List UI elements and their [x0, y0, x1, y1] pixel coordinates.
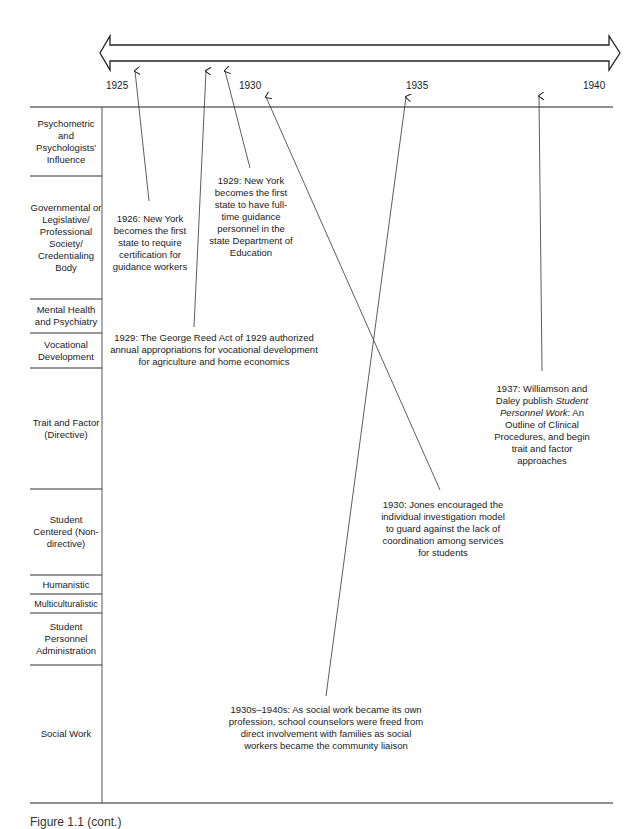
year-label-1925: 1925 — [106, 80, 128, 91]
category-multiculturalistic: Multiculturalistic — [28, 594, 104, 613]
event-1930s-1940s-social-work: 1930s–1940s: As social work became its o… — [226, 704, 426, 752]
leader-george-reed — [194, 71, 206, 327]
year-label-1940: 1940 — [583, 80, 605, 91]
event-1926-ny-certification: 1926: New York becomes the first state t… — [108, 213, 192, 273]
year-label-1935: 1935 — [406, 80, 428, 91]
year-label-1930: 1930 — [239, 80, 261, 91]
timeline-double-arrow — [100, 36, 620, 70]
category-student-personnel-admin: Student Personnel Administration — [30, 613, 102, 665]
event-1929-ny-personnel: 1929: New York becomes the first state t… — [206, 175, 296, 259]
leader-1926 — [135, 71, 149, 201]
event-1937-williamson-daley: 1937: Williamson and Daley publish Stude… — [494, 383, 590, 467]
category-psychometric: Psychometric and Psychologists' Influenc… — [30, 107, 102, 176]
category-vocational: Vocational Development — [30, 333, 102, 368]
category-humanistic: Humanistic — [30, 575, 102, 594]
figure-caption: Figure 1.1 (cont.) — [30, 815, 121, 829]
category-student-centered: Student Centered (Non-directive) — [30, 489, 102, 575]
category-mental-health: Mental Health and Psychiatry — [30, 299, 102, 333]
leader-1930s — [326, 97, 406, 696]
event-1929-george-reed-act: 1929: The George Reed Act of 1929 author… — [106, 332, 322, 368]
leader-jones — [266, 97, 440, 490]
category-social-work: Social Work — [30, 665, 102, 803]
leader-1937 — [539, 96, 542, 371]
event-1930-jones: 1930: Jones encouraged the individual in… — [380, 499, 506, 559]
category-governmental: Governmental or Legislative/ Professiona… — [30, 176, 102, 299]
category-trait-factor: Trait and Factor (Directive) — [30, 368, 102, 489]
